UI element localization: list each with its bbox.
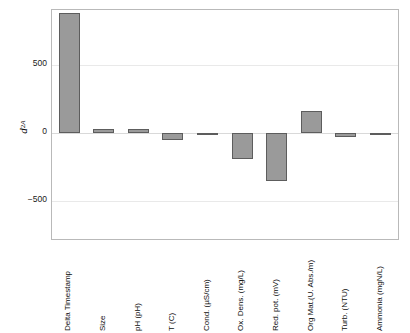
x-tick-label: T (C) [167, 313, 176, 331]
bar [197, 133, 218, 135]
x-tick-label: Ammonia (mgN/L) [375, 266, 384, 331]
bar [128, 129, 149, 133]
gridline-500 [52, 65, 398, 66]
x-tick-label: Red. pot. (mV) [271, 279, 280, 331]
x-tick-label: Turb. (NTU) [340, 289, 349, 331]
x-tick-label: Ox. Dens. (mg/L) [236, 270, 245, 331]
plot-area [51, 9, 399, 240]
bar [370, 133, 391, 135]
y-axis-ticks: 5000−500 [13, 0, 47, 333]
bar [59, 13, 80, 133]
y-tick-label: 0 [13, 127, 47, 136]
gridline--500 [52, 201, 398, 202]
x-tick-label: Size [98, 315, 107, 331]
bar [232, 133, 253, 159]
y-tick-label: 500 [13, 59, 47, 68]
bar [301, 111, 322, 133]
x-tick-label: pH (pH) [133, 303, 142, 331]
x-tick-label: Org Mat.(U. Abs./m) [306, 260, 315, 331]
bar [162, 133, 183, 140]
x-axis-ticks: Delta TimestampSizepH (pH)T (C)Cond. (µS… [51, 240, 399, 333]
bar [93, 129, 114, 133]
x-tick-label: Delta Timestamp [63, 271, 72, 331]
chart-figure: d2A 5000−500 Delta TimestampSizepH (pH)T… [0, 0, 410, 333]
bar [266, 133, 287, 181]
bar [335, 133, 356, 137]
y-tick-label: −500 [13, 195, 47, 204]
x-tick-label: Cond. (µS/cm) [202, 279, 211, 331]
